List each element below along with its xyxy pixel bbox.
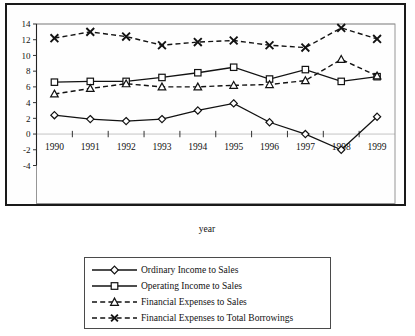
legend-label: Financial Expenses to Total Borrowings (141, 311, 293, 325)
legend-item-financial-expenses-to-sales: Financial Expenses to Sales (91, 294, 330, 310)
y-tick-label: 2 (26, 114, 31, 124)
x-tick-label: 1997 (296, 142, 315, 152)
legend-swatch-triangle (91, 295, 138, 309)
y-tick-label: -2 (23, 145, 31, 155)
y-tick-label: 6 (26, 82, 31, 92)
x-tick-label: 1993 (152, 142, 171, 152)
data-point-marker-square (230, 64, 236, 70)
legend-swatch-square (91, 279, 138, 293)
x-axis-title: year (199, 224, 216, 234)
x-tick-label: 1994 (188, 142, 207, 152)
data-point-marker-square (51, 79, 57, 85)
data-point-marker-x (373, 35, 381, 43)
series-line (54, 103, 377, 149)
data-point-marker-square (338, 78, 344, 84)
y-tick-label: 10 (22, 51, 32, 61)
chart-legend: Ordinary Income to Sales Operating Incom… (84, 257, 331, 329)
data-point-marker-diamond (302, 130, 309, 137)
x-tick-label: 1992 (117, 142, 136, 152)
series-financial-expenses-to-sales (51, 56, 381, 97)
data-point-marker-triangle (337, 56, 345, 63)
series-line (54, 28, 377, 48)
legend-label: Ordinary Income to Sales (141, 263, 238, 277)
data-point-marker-square (302, 66, 308, 72)
legend-item-financial-expenses-to-total-borrowings: Financial Expenses to Total Borrowings (91, 310, 330, 326)
data-point-marker-diamond (158, 116, 165, 123)
y-tick-label: -4 (23, 161, 31, 171)
data-point-marker-diamond (194, 107, 201, 114)
y-tick-label: 4 (26, 98, 31, 108)
data-point-marker-diamond (87, 116, 94, 123)
legend-swatch-diamond (91, 263, 138, 277)
data-point-marker-square (159, 74, 165, 80)
legend-label: Operating Income to Sales (141, 279, 242, 293)
data-point-marker-square (195, 70, 201, 76)
data-point-marker-diamond (266, 119, 273, 126)
series-ordinary-income-to-sales (51, 100, 381, 154)
y-axis-tick-labels: 14121086420-2-4 (22, 19, 32, 171)
x-tick-label: 1991 (81, 142, 100, 152)
legend-swatch-x (91, 311, 138, 325)
data-point-marker-diamond (123, 117, 130, 124)
axes-layer (33, 24, 395, 204)
y-tick-label: 8 (26, 66, 31, 76)
series-financial-expenses-to-total-borrowings (51, 24, 381, 51)
x-tick-label: 1995 (224, 142, 243, 152)
x-tick-label: 1996 (260, 142, 279, 152)
x-tick-label: 1999 (368, 142, 387, 152)
legend-item-ordinary-income-to-sales: Ordinary Income to Sales (91, 262, 330, 278)
x-tick-label: 1990 (45, 142, 64, 152)
data-point-marker-diamond (230, 100, 237, 107)
series-operating-income-to-sales (51, 64, 380, 85)
y-tick-label: 0 (26, 129, 31, 139)
y-tick-label: 12 (22, 35, 31, 45)
y-tick-label: 14 (22, 19, 32, 29)
data-point-marker-x (337, 24, 345, 32)
legend-label: Financial Expenses to Sales (141, 295, 247, 309)
x-axis-tick-labels: 1990199119921993199419951996199719981999 (45, 142, 387, 152)
series-line (54, 67, 377, 82)
data-point-marker-diamond (51, 112, 58, 119)
legend-item-operating-income-to-sales: Operating Income to Sales (91, 278, 330, 294)
data-point-marker-triangle (86, 85, 94, 92)
